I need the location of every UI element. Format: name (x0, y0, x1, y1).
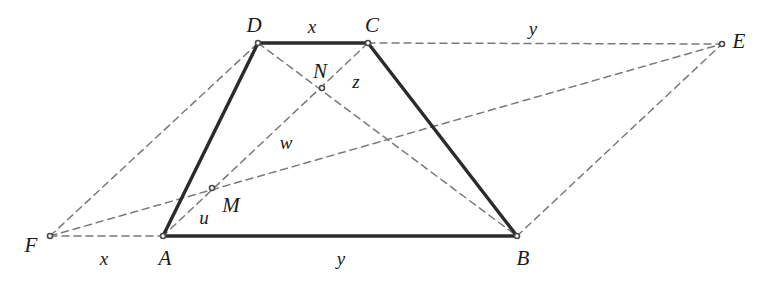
point-label-e: E (733, 31, 746, 52)
point-marker-d (256, 41, 261, 46)
segment-label-y-top: y (529, 19, 537, 38)
point-marker-n (320, 86, 325, 91)
solid-lines-group (163, 43, 517, 236)
segment-label-x-bottom: x (100, 249, 108, 268)
point-marker-b (515, 234, 520, 239)
solid-segment-ad (163, 43, 258, 236)
geometry-figure: ABCDEFMNxyxyzwu (0, 0, 764, 291)
point-label-f: F (25, 235, 38, 256)
dashed-segment-fe (50, 44, 722, 236)
segment-label-y-bottom: y (337, 249, 345, 268)
point-marker-e (720, 42, 725, 47)
point-marker-m (210, 186, 215, 191)
dashed-segment-ce (368, 43, 722, 44)
point-label-d: D (246, 15, 261, 36)
segment-label-x-top: x (308, 17, 316, 36)
dashed-lines-group (50, 43, 722, 236)
point-marker-c (366, 41, 371, 46)
segment-label-z: z (352, 72, 359, 91)
point-marker-f (48, 234, 53, 239)
point-label-a: A (159, 248, 172, 269)
point-label-n: N (313, 61, 327, 82)
point-marker-a (161, 234, 166, 239)
point-label-b: B (517, 248, 530, 269)
segment-label-w: w (280, 133, 293, 152)
point-label-c: C (365, 15, 379, 36)
dashed-segment-ca (163, 43, 368, 236)
geometry-canvas (0, 0, 764, 291)
point-label-m: M (222, 195, 240, 216)
segment-label-u: u (199, 208, 209, 227)
